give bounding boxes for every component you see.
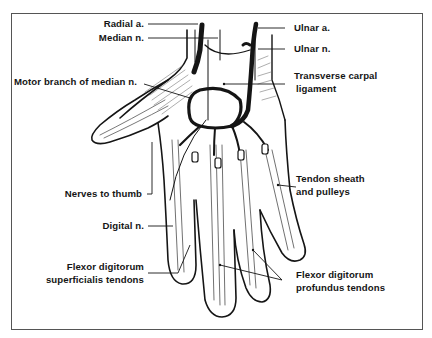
- label-fds-line2: superficialis tendons: [46, 274, 144, 286]
- leader-nerves-to-thumb: [147, 142, 152, 194]
- middle-finger: [196, 200, 236, 317]
- palmar-arch: [189, 88, 241, 128]
- label-ulnar-nerve: Ulnar n.: [294, 43, 331, 55]
- ulnar-artery: [232, 24, 256, 126]
- index-finger: [158, 123, 196, 284]
- ring-finger: [234, 210, 270, 302]
- label-fdp-line1: Flexor digitorum: [296, 269, 373, 281]
- leader-fdp: [220, 250, 282, 280]
- label-ulnar-artery: Ulnar a.: [294, 22, 330, 34]
- label-fds-line1: Flexor digitorum: [67, 261, 144, 273]
- label-tendon-sheath-line2: and pulleys: [296, 186, 350, 198]
- leader-sheath: [278, 185, 296, 187]
- label-digital-nerve: Digital n.: [102, 220, 144, 232]
- label-radial-artery: Radial a.: [104, 18, 144, 30]
- label-median-nerve: Median n.: [99, 32, 144, 44]
- wrist-outline-right: [272, 35, 285, 120]
- label-transverse-carpal-line2: ligament: [296, 83, 336, 95]
- label-tendon-sheath-line1: Tendon sheath: [296, 173, 365, 185]
- label-nerves-to-thumb: Nerves to thumb: [65, 188, 142, 200]
- label-transverse-carpal-line1: Transverse carpal: [294, 70, 377, 82]
- label-motor-branch: Motor branch of median n.: [14, 76, 137, 88]
- label-fdp-line2: profundus tendons: [296, 282, 385, 294]
